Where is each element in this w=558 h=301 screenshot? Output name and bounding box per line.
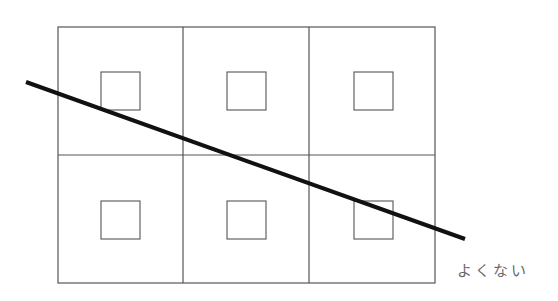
- inner-square: [101, 72, 140, 110]
- inner-square: [227, 201, 266, 239]
- diagonal-line: [26, 82, 465, 239]
- inner-square: [227, 72, 266, 110]
- outer-grid: [58, 27, 435, 283]
- grid-diagram: [0, 0, 558, 301]
- caption-label: よくない: [457, 259, 529, 280]
- inner-square: [101, 201, 140, 239]
- inner-square: [354, 72, 393, 110]
- diagonal-cut-line: [26, 82, 465, 239]
